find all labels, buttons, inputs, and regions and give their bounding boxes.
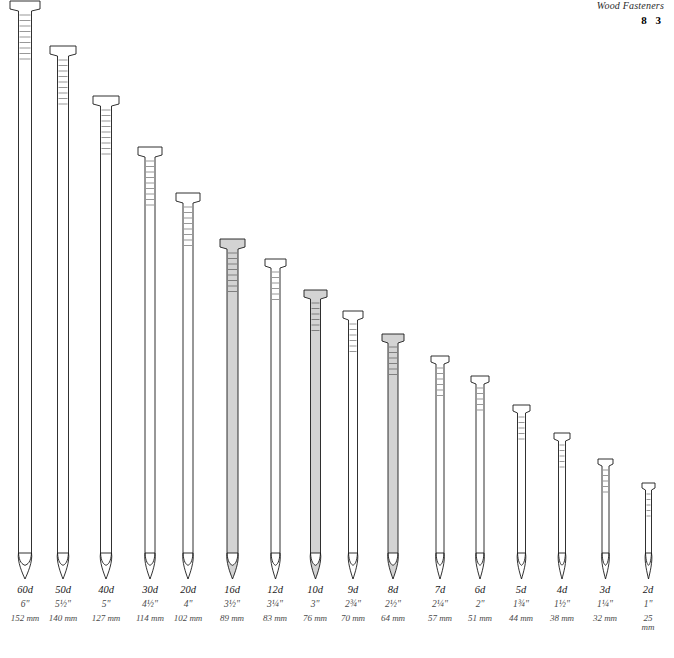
nail-5d (509, 404, 534, 582)
nail-size-chart: 60d 6" 152 mm 50d 5½" 140 mm 40d 5" 127 … (0, 0, 674, 658)
nail-50d (46, 45, 80, 582)
nail-10d (300, 289, 331, 582)
nail-16d (216, 238, 249, 582)
nail-penny-size: 2d (618, 585, 674, 596)
page: Wood Fasteners 8 3 60d 6" 152 mm 50d 5½"… (0, 0, 674, 658)
nail-7d (427, 355, 453, 582)
nail-length-inches: 1" (618, 600, 674, 610)
nail-9d (339, 310, 367, 582)
nail-2d (638, 482, 659, 582)
nail-40d (89, 95, 123, 582)
nail-12d (261, 258, 290, 582)
nail-30d (134, 146, 166, 582)
nail-8d (378, 333, 408, 582)
nail-6d (467, 375, 493, 582)
nail-20d (172, 192, 204, 582)
nail-3d (594, 458, 617, 582)
nail-labels-2d: 2d 1" 25mm (618, 585, 674, 632)
nail-length-mm: 25mm (618, 614, 674, 632)
nail-60d (6, 0, 44, 582)
nail-4d (550, 432, 574, 582)
